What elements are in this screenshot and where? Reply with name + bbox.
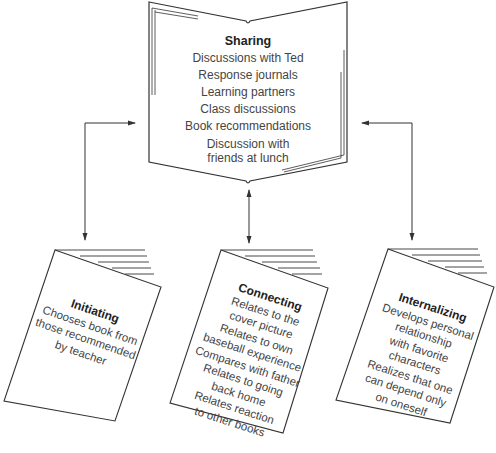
- sharing-item: friends at lunch: [146, 151, 350, 165]
- sharing-text-block: Sharing Discussions with Ted Response jo…: [146, 33, 350, 165]
- sharing-item: Learning partners: [146, 84, 350, 101]
- sharing-item: Book recommendations: [146, 118, 350, 135]
- sharing-title: Sharing: [146, 33, 350, 50]
- sharing-item: Response journals: [146, 67, 350, 84]
- sharing-item: Discussions with Ted: [146, 50, 350, 67]
- sharing-item: Class discussions: [146, 101, 350, 118]
- sharing-item: Discussion with: [146, 137, 350, 151]
